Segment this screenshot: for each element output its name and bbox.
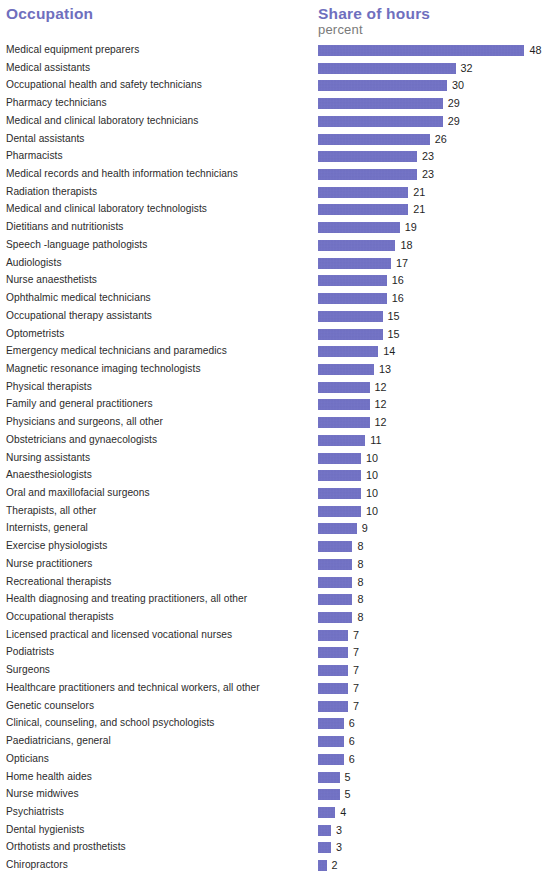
share-of-hours-bar	[318, 701, 348, 712]
share-of-hours-bar	[318, 559, 352, 570]
table-row: Ophthalmic medical technicians16	[0, 291, 551, 309]
table-row: Radiation therapists21	[0, 185, 551, 203]
bar-value-label: 15	[388, 310, 400, 323]
occupation-label: Health diagnosing and treating practitio…	[6, 592, 247, 605]
table-row: Obstetricians and gynaecologists11	[0, 433, 551, 451]
chart-sheet: Occupation Share of hours percent Medica…	[0, 0, 551, 885]
share-of-hours-bar	[318, 488, 361, 499]
occupation-label: Internists, general	[6, 521, 88, 534]
occupation-label: Oral and maxillofacial surgeons	[6, 486, 150, 499]
occupation-label: Medical and clinical laboratory technici…	[6, 114, 198, 127]
table-row: Physical therapists12	[0, 380, 551, 398]
occupation-label: Exercise physiologists	[6, 539, 107, 552]
bar-value-label: 18	[400, 239, 412, 252]
table-row: Therapists, all other10	[0, 504, 551, 522]
occupation-label: Audiologists	[6, 256, 62, 269]
bar-value-label: 23	[422, 150, 434, 163]
share-of-hours-bar	[318, 754, 344, 765]
bar-value-label: 3	[336, 824, 342, 837]
table-row: Physicians and surgeons, all other12	[0, 415, 551, 433]
occupation-label: Surgeons	[6, 663, 50, 676]
occupation-label: Clinical, counseling, and school psychol…	[6, 716, 214, 729]
table-row: Pharmacy technicians29	[0, 96, 551, 114]
bar-value-label: 29	[448, 115, 460, 128]
bar-value-label: 12	[375, 398, 387, 411]
table-row: Healthcare practitioners and technical w…	[0, 681, 551, 699]
share-of-hours-bar	[318, 346, 378, 357]
occupation-label: Recreational therapists	[6, 575, 111, 588]
bar-value-label: 6	[349, 753, 355, 766]
occupation-label: Chiropractors	[6, 858, 68, 871]
share-of-hours-bar	[318, 453, 361, 464]
bar-value-label: 10	[366, 469, 378, 482]
share-of-hours-bar	[318, 523, 357, 534]
table-row: Orthotists and prosthetists3	[0, 840, 551, 858]
share-of-hours-bar	[318, 45, 524, 56]
share-of-hours-bar	[318, 665, 348, 676]
table-row: Dental assistants26	[0, 132, 551, 150]
share-of-hours-bar	[318, 98, 443, 109]
bar-value-label: 17	[396, 257, 408, 270]
share-of-hours-bar	[318, 683, 348, 694]
occupation-label: Ophthalmic medical technicians	[6, 291, 151, 304]
occupation-label: Occupational health and safety technicia…	[6, 78, 202, 91]
occupation-label: Opticians	[6, 752, 49, 765]
bar-value-label: 8	[357, 558, 363, 571]
occupation-label: Nurse anaesthetists	[6, 273, 97, 286]
bar-value-label: 7	[353, 682, 359, 695]
share-of-hours-bar	[318, 736, 344, 747]
bar-value-label: 23	[422, 168, 434, 181]
table-row: Occupational health and safety technicia…	[0, 78, 551, 96]
share-of-hours-bar	[318, 825, 331, 836]
table-row: Anaesthesiologists10	[0, 468, 551, 486]
share-of-hours-bar	[318, 364, 374, 375]
bar-value-label: 14	[383, 345, 395, 358]
bar-value-label: 10	[366, 487, 378, 500]
bar-chart-rows: Medical equipment preparers48Medical ass…	[0, 0, 551, 885]
occupation-label: Speech -language pathologists	[6, 238, 147, 251]
bar-value-label: 16	[392, 292, 404, 305]
table-row: Magnetic resonance imaging technologists…	[0, 362, 551, 380]
occupation-label: Dietitians and nutritionists	[6, 220, 123, 233]
occupation-label: Pharmacy technicians	[6, 96, 107, 109]
occupation-label: Magnetic resonance imaging technologists	[6, 362, 201, 375]
bar-value-label: 19	[405, 221, 417, 234]
occupation-label: Nurse practitioners	[6, 557, 92, 570]
bar-value-label: 8	[357, 611, 363, 624]
bar-value-label: 29	[448, 97, 460, 110]
occupation-label: Family and general practitioners	[6, 397, 153, 410]
bar-value-label: 8	[357, 593, 363, 606]
table-row: Paediatricians, general6	[0, 734, 551, 752]
occupation-label: Nursing assistants	[6, 451, 90, 464]
share-of-hours-bar	[318, 417, 370, 428]
bar-value-label: 26	[435, 133, 447, 146]
share-of-hours-bar	[318, 382, 370, 393]
occupation-label: Dental assistants	[6, 132, 84, 145]
occupation-label: Medical equipment preparers	[6, 43, 139, 56]
table-row: Podiatrists7	[0, 645, 551, 663]
table-row: Internists, general9	[0, 521, 551, 539]
table-row: Medical equipment preparers48	[0, 43, 551, 61]
share-of-hours-bar	[318, 718, 344, 729]
share-of-hours-bar	[318, 151, 417, 162]
occupation-label: Genetic counselors	[6, 699, 94, 712]
occupation-label: Pharmacists	[6, 149, 63, 162]
bar-value-label: 8	[357, 576, 363, 589]
table-row: Health diagnosing and treating practitio…	[0, 592, 551, 610]
table-row: Occupational therapists8	[0, 610, 551, 628]
share-of-hours-bar	[318, 258, 391, 269]
table-row: Nurse midwives5	[0, 787, 551, 805]
occupation-label: Medical and clinical laboratory technolo…	[6, 202, 207, 215]
bar-value-label: 2	[332, 859, 338, 872]
table-row: Audiologists17	[0, 256, 551, 274]
share-of-hours-bar	[318, 80, 447, 91]
share-of-hours-bar	[318, 594, 352, 605]
occupation-label: Anaesthesiologists	[6, 468, 92, 481]
bar-value-label: 7	[353, 629, 359, 642]
occupation-label: Nurse midwives	[6, 787, 79, 800]
share-of-hours-bar	[318, 169, 417, 180]
share-of-hours-bar	[318, 506, 361, 517]
occupation-label: Home health aides	[6, 770, 92, 783]
occupation-label: Healthcare practitioners and technical w…	[6, 681, 260, 694]
share-of-hours-bar	[318, 647, 348, 658]
